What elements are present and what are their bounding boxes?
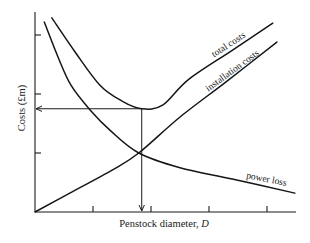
power-loss-curve [44,22,295,193]
y-axis-label: Costs (£m) [16,84,28,131]
curves [35,18,295,212]
cost-optimisation-chart: total costs installation costs power los… [0,0,310,243]
x-axis-label-variable: D [200,218,209,229]
x-axis-label: Penstock diameter, D [119,218,209,229]
x-axis-ticks [93,206,267,212]
optimum-guides [36,109,142,211]
power-loss-label: power loss [246,170,288,188]
x-axis-label-text: Penstock diameter, [119,218,201,229]
y-axis-ticks [35,35,41,153]
